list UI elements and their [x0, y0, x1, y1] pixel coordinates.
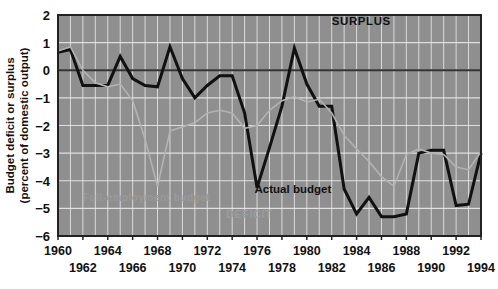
annotation-deficit: DEFICIT: [226, 208, 272, 220]
y-axis-title-line: Budget deficit or surplus: [4, 57, 16, 193]
x-axis-tick-label: 1966: [119, 261, 147, 275]
y-axis-title-line: (percent of domestic output): [18, 47, 30, 203]
annotation-actual-budget: Actual budget: [255, 183, 332, 195]
x-axis-tick-label: 1964: [94, 244, 122, 258]
y-axis-tick-label: −6: [35, 229, 50, 244]
x-axis-tick-label: 1990: [417, 261, 445, 275]
y-axis-tick-label: 0: [43, 63, 50, 78]
y-axis-tick-label: −5: [35, 201, 50, 216]
chart-root: DEFICITFull-employment budgetSURPLUSActu…: [0, 0, 498, 289]
x-axis-tick-label: 1976: [243, 244, 271, 258]
x-axis-tick-label: 1986: [368, 261, 396, 275]
y-axis-tick-label: −4: [35, 174, 51, 189]
x-axis-tick-label: 1974: [218, 261, 246, 275]
x-axis-tick-label: 1994: [467, 261, 495, 275]
annotation-surplus: SURPLUS: [332, 15, 391, 27]
y-axis-tick-label: −3: [35, 146, 50, 161]
annotation-full-employment-budget: Full-employment budget: [83, 192, 210, 203]
x-axis-tick-label: 1980: [293, 244, 321, 258]
x-axis-tick-label: 1968: [144, 244, 172, 258]
y-axis-tick-label: −2: [35, 119, 50, 134]
x-axis-tick-label: 1978: [268, 261, 296, 275]
y-axis-tick-label: −1: [35, 91, 50, 106]
y-axis-title: Budget deficit or surplus(percent of dom…: [4, 47, 30, 203]
y-axis-tick-label: 1: [43, 36, 50, 51]
x-axis-tick-label: 1982: [318, 261, 346, 275]
y-axis-tick-label: 2: [43, 8, 50, 23]
x-axis-tick-label: 1992: [442, 244, 470, 258]
x-axis-tick-label: 1970: [169, 261, 197, 275]
x-axis-tick-label: 1962: [69, 261, 97, 275]
budget-deficit-surplus-chart: DEFICITFull-employment budgetSURPLUSActu…: [0, 0, 498, 289]
x-axis-tick-label: 1972: [193, 244, 221, 258]
x-axis-tick-label: 1984: [343, 244, 371, 258]
x-axis-tick-label: 1960: [44, 244, 72, 258]
x-axis-tick-label: 1988: [392, 244, 420, 258]
